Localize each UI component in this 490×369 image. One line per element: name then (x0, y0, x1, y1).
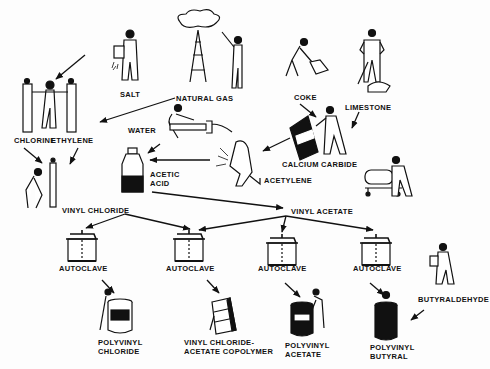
label-butyraldehyde: BUTYRALDEHYDE (418, 295, 489, 304)
acetylene-worker-icon (216, 141, 260, 186)
calcium-carbide-drum-icon (290, 107, 346, 161)
label-copolymer-line2: ACETATE COPOLYMER (184, 347, 273, 356)
label-acetic-acid-line1: ACETIC (150, 170, 180, 179)
label-autoclave-4: AUTOCLAVE (353, 264, 402, 273)
label-autoclave-2: AUTOCLAVE (166, 264, 215, 273)
autoclave-icon-3 (266, 234, 298, 265)
label-acetic-acid-line2: ACID (150, 179, 170, 188)
vinyl-resin-process-diagram: SALT NATURAL GAS COKE LIMESTONE CHLORINE… (0, 0, 490, 369)
vinyl-chloride-cylinder-icon (26, 158, 56, 208)
label-vinyl-chloride: VINYL CHLORIDE (62, 206, 129, 215)
label-chlorine: CHLORINE (14, 136, 56, 145)
label-water: WATER (128, 126, 156, 135)
polyvinyl-acetate-drum-icon (291, 289, 324, 336)
natural-gas-derrick-icon (178, 10, 242, 88)
limestone-worker-icon (358, 30, 390, 93)
label-polyvinyl-acetate-line2: ACETATE (285, 350, 321, 359)
water-pipe-worker-icon (169, 105, 232, 139)
salt-worker-icon (112, 30, 138, 80)
label-autoclave-3: AUTOCLAVE (258, 264, 307, 273)
chlorine-cylinders-icon (23, 79, 76, 133)
label-vinyl-acetate: VINYL ACETATE (291, 207, 353, 216)
illustrations (0, 0, 490, 369)
label-limestone: LIMESTONE (345, 103, 391, 112)
label-natural-gas: NATURAL GAS (176, 94, 233, 103)
polyvinyl-chloride-drum-icon (100, 289, 132, 333)
butyraldehyde-worker-icon (430, 244, 454, 285)
label-salt: SALT (120, 90, 140, 99)
label-autoclave-1: AUTOCLAVE (59, 264, 108, 273)
drum-cart-icon (365, 157, 412, 197)
label-polyvinyl-butyral-line1: POLYVINYL (370, 343, 415, 352)
coke-worker-icon (286, 39, 328, 77)
label-calcium-carbide: CALCIUM CARBIDE (282, 160, 357, 169)
label-ethylene: ETHYLENE (51, 136, 93, 145)
label-coke: COKE (294, 93, 317, 102)
label-polyvinyl-chloride-line2: CHLORIDE (98, 347, 140, 356)
label-polyvinyl-chloride-line1: POLYVINYL (98, 338, 143, 347)
label-acetylene: ACETYLENE (264, 176, 312, 185)
acetic-acid-bottle-icon (122, 148, 143, 192)
label-polyvinyl-butyral-line2: BUTYRAL (370, 352, 408, 361)
autoclave-icon-4 (360, 234, 392, 265)
polyvinyl-butyral-drum-icon (375, 292, 397, 341)
label-polyvinyl-acetate-line1: POLYVINYL (285, 341, 330, 350)
autoclave-icon-2 (173, 230, 205, 261)
autoclave-icon-1 (66, 230, 98, 261)
copolymer-drum-icon (210, 298, 236, 334)
label-copolymer-line1: VINYL CHLORIDE- (184, 338, 254, 347)
